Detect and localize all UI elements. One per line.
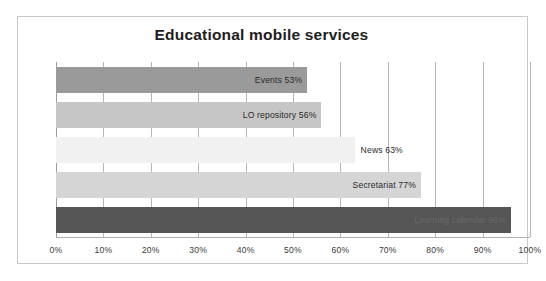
bar-row: News 63% [56,137,530,163]
x-tick-label: 30% [189,245,207,255]
chart-title: Educational mobile services [18,26,527,44]
x-tick-label: 80% [426,245,444,255]
x-tick-label: 60% [331,245,349,255]
x-tick-label: 90% [474,245,492,255]
bar-news[interactable] [56,137,355,163]
bar-value-label: LO repository 56% [243,110,317,119]
bar-value-label: Learning calendar 96% [415,215,507,224]
bar-row: LO repository 56% [56,102,530,128]
chart-frame: Educational mobile services Events 53%LO… [17,16,528,264]
bar-value-label: News 63% [361,145,403,154]
x-axis-baseline [56,237,530,238]
x-tick-label: 40% [237,245,255,255]
x-tick-label: 70% [379,245,397,255]
bar-row: Learning calendar 96% [56,207,530,233]
plot-area: Events 53%LO repository 56%News 63%Secre… [56,62,530,237]
x-tick-label: 20% [142,245,160,255]
bar-value-label: Events 53% [255,75,302,84]
x-tick-label: 50% [284,245,302,255]
bar-row: Events 53% [56,67,530,93]
bar-row: Secretariat 77% [56,172,530,198]
x-tick-label: 100% [519,245,542,255]
x-tick-label: 10% [94,245,112,255]
bar-value-label: Secretariat 77% [353,180,416,189]
x-axis-tick-labels: 0%10%20%30%40%50%60%70%80%90%100% [56,245,530,261]
x-tick-label: 0% [50,245,63,255]
gridline-100pct [530,62,531,237]
